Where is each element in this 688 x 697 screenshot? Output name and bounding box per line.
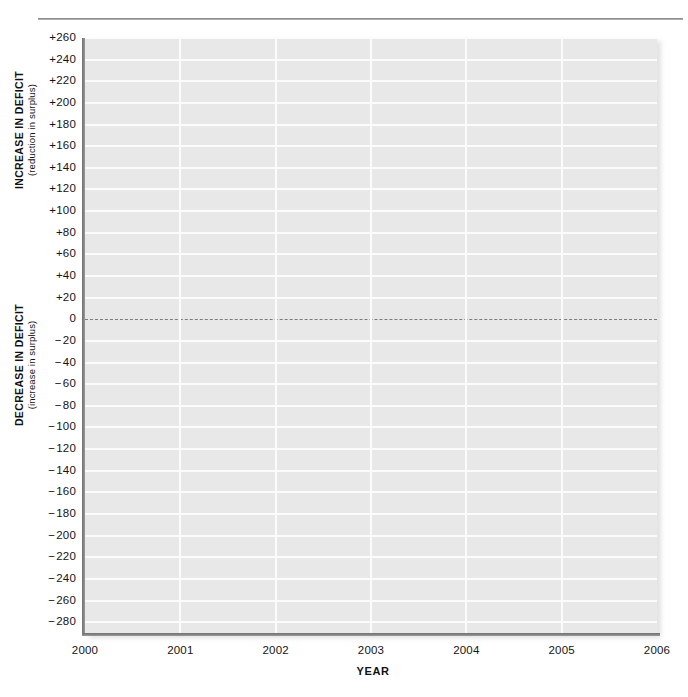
x-axis-tick-label: 2003 [341,645,401,657]
y-axis-tick-label: − 80 [55,400,76,412]
y-axis-tick-label: − 160 [48,486,76,498]
x-axis-tick-label: 2001 [150,645,210,657]
y-axis-tick-label: − 240 [48,573,76,585]
y-axis-tick-label: +140 [49,162,76,174]
x-axis-spine [82,633,660,636]
header-divider [38,18,683,20]
y-axis-tick-label: − 200 [48,530,76,542]
vertical-gridline [275,38,277,633]
y-axis-tick-label: +20 [56,292,76,304]
vertical-gridline [179,38,181,633]
y-axis-tick-label: − 220 [48,551,76,563]
y-axis-tick-label: +260 [49,32,76,44]
y-axis-title-upper: INCREASE IN DEFICIT (reduction in surplu… [14,30,37,230]
y-axis-tick-label: − 280 [48,616,76,628]
y-axis-tick-label: − 120 [48,443,76,455]
vertical-gridline [370,38,372,633]
y-axis-tick-label: − 260 [48,595,76,607]
x-axis-tick-label: 2002 [246,645,306,657]
y-axis-tick-label: +220 [49,75,76,87]
y-axis-tick-label: +200 [49,97,76,109]
y-axis-tick-label: +160 [49,140,76,152]
vertical-gridline [465,38,467,633]
y-axis-tick-label: +240 [49,54,76,66]
plot-area [85,38,657,633]
figure-container: INCREASE IN DEFICIT (reduction in surplu… [0,0,688,697]
x-axis-tick-label: 2004 [436,645,496,657]
x-axis-tick-label: 2005 [532,645,592,657]
y-axis-tick-label: − 100 [48,421,76,433]
y-axis-tick-label: − 180 [48,508,76,520]
x-axis-tick-label: 2000 [55,645,115,657]
y-axis-tick-label: 0 [69,313,76,325]
y-axis-tick-label: +80 [56,227,76,239]
y-axis-tick-label: +180 [49,119,76,131]
y-axis-title-lower-sub: (increase in surplus) [27,265,37,465]
y-axis-tick-label: − 140 [48,465,76,477]
x-axis-title: YEAR [29,665,688,677]
y-axis-tick-label: − 40 [55,357,76,369]
x-axis-tick-label: 2006 [627,645,687,657]
y-axis-title-upper-main: INCREASE IN DEFICIT [14,30,26,230]
y-axis-tick-label: +120 [49,183,76,195]
y-axis-spine [82,38,85,636]
y-axis-tick-label: +100 [49,205,76,217]
y-axis-tick-label: − 60 [55,378,76,390]
vertical-gridline [561,38,563,633]
y-axis-tick-label: − 20 [55,335,76,347]
y-axis-tick-label: +60 [56,248,76,260]
y-axis-title-lower-main: DECREASE IN DEFICIT [14,265,26,465]
y-axis-title-lower: DECREASE IN DEFICIT (increase in surplus… [14,265,37,465]
y-axis-tick-label: +40 [56,270,76,282]
y-axis-title-upper-sub: (reduction in surplus) [27,30,37,230]
